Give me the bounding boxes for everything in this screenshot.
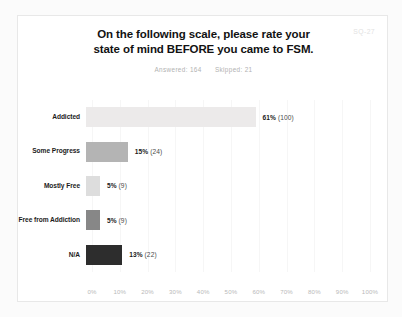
bar-category-label: Mostly Free <box>18 182 86 190</box>
bar-category-label: Free from Addiction <box>18 216 86 224</box>
bar-track: 5% (9) <box>86 203 389 237</box>
bar-percent: 13% <box>129 251 143 258</box>
bar-track: 5% (9) <box>86 169 389 203</box>
x-axis: 0%10%20%30%40%50%60%70%80%90%100% <box>92 288 370 302</box>
bar-track: 15% (24) <box>86 134 389 168</box>
chart-title: On the following scale, please rate your… <box>18 27 389 56</box>
bar-percent: 5% <box>107 217 117 224</box>
bar[interactable] <box>86 107 256 127</box>
bar-percent: 5% <box>107 182 117 189</box>
bar-row: Some Progress15% (24) <box>18 134 389 168</box>
bar-value-label: 15% (24) <box>135 148 163 155</box>
x-tick-label: 30% <box>169 288 182 295</box>
bar-track: 61% (100) <box>86 100 389 134</box>
chart-subtitle: Answered: 164 Skipped: 21 <box>18 66 389 73</box>
bar-chart-plot-area: Addicted61% (100)Some Progress15% (24)Mo… <box>18 90 389 288</box>
bar[interactable] <box>86 210 100 230</box>
bar-value-label: 5% (9) <box>107 217 127 224</box>
bar-value-label: 5% (9) <box>107 182 127 189</box>
bar-count: (100) <box>278 114 294 121</box>
bar-percent: 61% <box>263 114 277 121</box>
x-tick-label: 60% <box>252 288 265 295</box>
survey-result-card: SQ-27 On the following scale, please rat… <box>17 15 388 302</box>
bar-category-label: N/A <box>18 251 86 259</box>
bar-count: (9) <box>119 217 127 224</box>
bar-row: N/A13% (22) <box>18 238 389 272</box>
bar[interactable] <box>86 176 100 196</box>
chart-header: On the following scale, please rate your… <box>18 27 389 73</box>
x-tick-label: 20% <box>141 288 154 295</box>
bar-rows: Addicted61% (100)Some Progress15% (24)Mo… <box>18 100 389 272</box>
x-tick-label: 0% <box>87 288 96 295</box>
bar[interactable] <box>86 142 128 162</box>
x-tick-label: 70% <box>280 288 293 295</box>
bar-value-label: 13% (22) <box>129 251 157 258</box>
x-tick-label: 40% <box>197 288 210 295</box>
bar-count: (22) <box>145 251 157 258</box>
bar-count: (24) <box>150 148 162 155</box>
bar-category-label: Some Progress <box>18 147 86 155</box>
chart-title-line-2: state of mind BEFORE you came to FSM. <box>94 43 314 55</box>
bar-row: Free from Addiction5% (9) <box>18 203 389 237</box>
answered-count-label: Answered: 164 <box>154 66 201 73</box>
bar-percent: 15% <box>135 148 149 155</box>
screenshot-root: SQ-27 On the following scale, please rat… <box>0 0 402 317</box>
bar[interactable] <box>86 245 122 265</box>
bar-track: 13% (22) <box>86 238 389 272</box>
skipped-count-label: Skipped: 21 <box>215 66 253 73</box>
x-tick-label: 100% <box>362 288 378 295</box>
bar-category-label: Addicted <box>18 113 86 121</box>
chart-title-line-1: On the following scale, please rate your <box>97 28 310 40</box>
bar-value-label: 61% (100) <box>263 114 294 121</box>
bar-row: Addicted61% (100) <box>18 100 389 134</box>
x-tick-label: 50% <box>225 288 238 295</box>
x-tick-label: 80% <box>308 288 321 295</box>
x-tick-label: 10% <box>113 288 126 295</box>
bar-row: Mostly Free5% (9) <box>18 169 389 203</box>
bar-count: (9) <box>119 182 127 189</box>
x-tick-label: 90% <box>336 288 349 295</box>
